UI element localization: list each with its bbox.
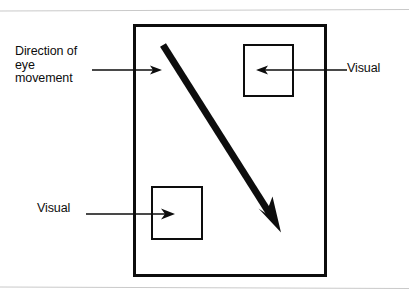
visual-label-bottom-left: Visual bbox=[37, 202, 70, 216]
visual-target-bottom-left bbox=[152, 187, 202, 239]
eye-movement-arrow-shaft bbox=[163, 45, 271, 215]
scan-line-bottom-icon bbox=[0, 287, 409, 289]
visual-label-top-right: Visual bbox=[347, 62, 380, 76]
direction-of-eye-movement-label: Direction of eye movement bbox=[15, 45, 77, 86]
eye-movement-diagram: Direction of eye movement Visual Visual bbox=[0, 0, 409, 294]
scan-line-top-icon bbox=[0, 10, 409, 12]
